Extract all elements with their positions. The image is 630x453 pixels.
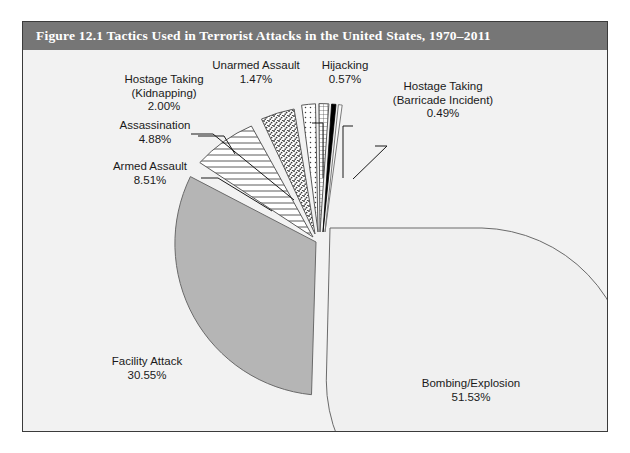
label-assassination: Assassination 4.88% [107, 119, 203, 146]
label-armed-assault: Armed Assault 8.51% [101, 160, 199, 187]
leader-line-hijacking-elbow [343, 126, 353, 132]
pie-chart-plot-area: Hostage Taking (Kidnapping) 2.00% Unarme… [23, 50, 607, 431]
figure-container: Figure 12.1 Tactics Used in Terrorist At… [0, 0, 630, 453]
leader-line-barricade [353, 146, 387, 179]
label-bombing-explosion: Bombing/Explosion 51.53% [406, 377, 536, 404]
figure-title-bar: Figure 12.1 Tactics Used in Terrorist At… [23, 22, 607, 50]
label-unarmed-assault: Unarmed Assault 1.47% [199, 59, 313, 86]
page-title: Figure 12.1 Tactics Used in Terrorist At… [23, 28, 491, 44]
label-hostage-taking-barricade: Hostage Taking (Barricade Incident) 0.49… [373, 80, 513, 121]
label-hijacking: Hijacking 0.57% [309, 59, 381, 86]
label-facility-attack: Facility Attack 30.55% [87, 355, 207, 382]
